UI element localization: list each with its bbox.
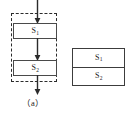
panel-a: S1 S2 （a） [0, 0, 66, 125]
statement-label-s1: S1 [31, 27, 38, 35]
figure-sequence-reduction: S1 S2 （a） S1 S2 [0, 0, 131, 125]
between-arrow-icon [34, 38, 41, 61]
exit-arrow-icon [34, 75, 41, 95]
panel-b: S1 S2 （b） [66, 0, 131, 125]
statement-box-s1: S1 [13, 23, 57, 39]
merged-block-box: S1 S2 [72, 48, 125, 86]
merged-label-s2: S2 [95, 72, 102, 80]
panel-a-caption: （a） [0, 99, 66, 108]
statement-label-s2: S2 [31, 64, 38, 72]
merged-row-s2: S2 [73, 68, 124, 86]
statement-box-s2: S2 [13, 60, 57, 76]
merged-row-s1: S1 [73, 49, 124, 68]
merged-label-s1: S1 [95, 54, 102, 62]
